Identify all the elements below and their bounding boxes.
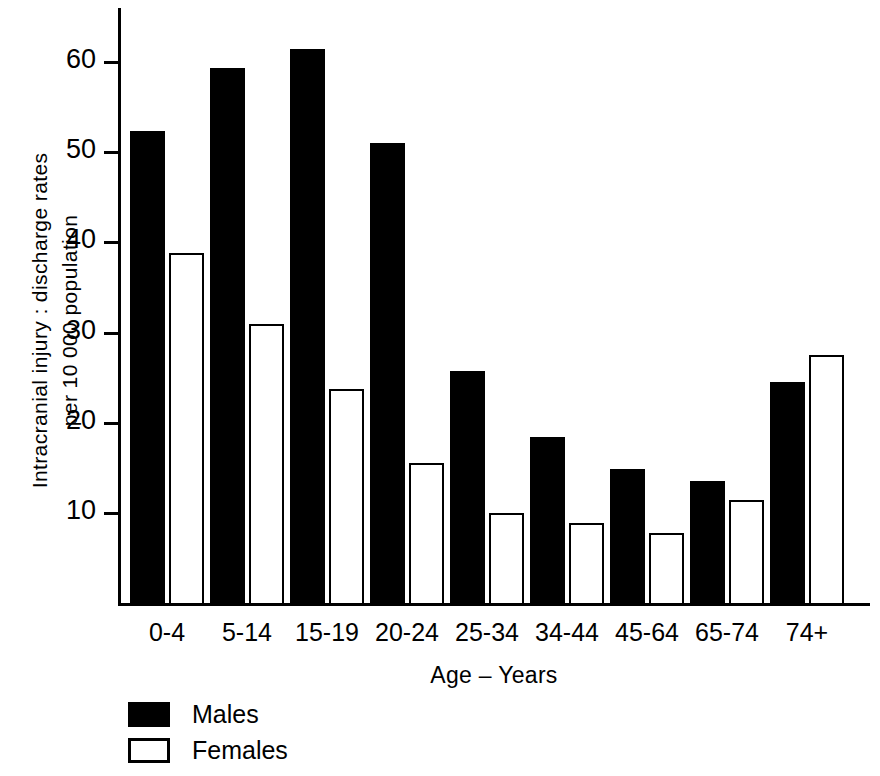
- bar-0-4-males: [130, 131, 165, 603]
- bar-65-74-females: [729, 500, 764, 603]
- y-axis-tick: 60: [104, 61, 118, 64]
- y-axis-tick-label: 50: [66, 136, 96, 163]
- y-axis-tick-label: 40: [66, 226, 96, 253]
- y-axis-tick-label: 30: [66, 317, 96, 344]
- bar-25-34-females: [489, 513, 524, 603]
- y-axis-tick: 30: [104, 332, 118, 335]
- legend-item-females: Females: [128, 732, 288, 768]
- bar-65-74-males: [690, 481, 725, 603]
- legend: Males Females: [128, 696, 288, 768]
- bar-chart-figure: Intracranial injury : discharge rates pe…: [0, 0, 880, 776]
- bar-5-14-females: [249, 324, 284, 603]
- bar-20-24-males: [370, 143, 405, 603]
- x-axis-line: [118, 603, 870, 606]
- bar-15-19-females: [329, 389, 364, 603]
- bar-20-24-females: [409, 463, 444, 603]
- y-axis-tick-label: 20: [66, 407, 96, 434]
- legend-label-females: Females: [192, 738, 288, 763]
- bar-34-44-females: [569, 523, 604, 603]
- legend-swatch-males: [128, 702, 170, 727]
- bar-45-64-females: [649, 533, 684, 603]
- y-axis-tick: 40: [104, 241, 118, 244]
- bar-34-44-males: [530, 437, 565, 603]
- legend-item-males: Males: [128, 696, 288, 732]
- bar-74plus-males: [770, 382, 805, 603]
- x-axis-title: Age – Years: [118, 662, 870, 689]
- bar-74plus-females: [809, 355, 844, 603]
- x-axis-tick-label-74plus: 74+: [752, 620, 862, 645]
- bar-25-34-males: [450, 371, 485, 603]
- legend-swatch-females: [128, 738, 170, 763]
- y-axis-line: [118, 8, 121, 606]
- y-axis-title-container: Intracranial injury : discharge rates pe…: [0, 0, 100, 620]
- y-axis-tick-label: 10: [66, 497, 96, 524]
- bar-45-64-males: [610, 469, 645, 603]
- plot-area: 102030405060 0-45-1415-1920-2425-3434-44…: [118, 8, 870, 606]
- y-axis-tick-label: 60: [66, 46, 96, 73]
- bar-15-19-males: [290, 49, 325, 603]
- y-axis-title-line-1: Intracranial injury : discharge rates: [25, 20, 55, 620]
- bar-5-14-males: [210, 68, 245, 604]
- y-axis-tick: 10: [104, 512, 118, 515]
- bar-0-4-females: [169, 253, 204, 603]
- y-axis-tick: 20: [104, 422, 118, 425]
- y-axis-tick: 50: [104, 151, 118, 154]
- legend-label-males: Males: [192, 702, 259, 727]
